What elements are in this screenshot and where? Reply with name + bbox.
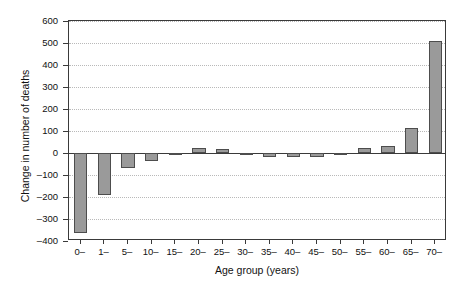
- bar: [310, 153, 323, 157]
- bar: [287, 153, 300, 157]
- x-tick-mark: [80, 240, 81, 244]
- bar: [192, 148, 205, 154]
- bar: [240, 153, 253, 155]
- x-tick-label: 15–: [166, 246, 182, 257]
- y-tick-label: –100: [37, 170, 58, 180]
- bar: [145, 153, 158, 161]
- y-tick-label: –300: [37, 214, 58, 224]
- x-axis: 0–1–5–10–15–20–25–30–35–40–45–50–55–60–6…: [68, 240, 446, 264]
- x-tick-label: 30–: [237, 246, 253, 257]
- x-tick-label: 20–: [190, 246, 206, 257]
- y-tick-label: 200: [42, 104, 58, 114]
- x-tick-label: 50–: [332, 246, 348, 257]
- y-tick-label: 400: [42, 60, 58, 70]
- x-tick-mark: [340, 240, 341, 244]
- bar: [334, 153, 347, 155]
- bar-chart: Change in number of deaths –400–300–200–…: [0, 0, 464, 291]
- x-tick-label: 40–: [285, 246, 301, 257]
- bar: [429, 41, 442, 153]
- y-tick-label: 300: [42, 82, 58, 92]
- x-tick-mark: [434, 240, 435, 244]
- bar: [381, 146, 394, 153]
- bar: [169, 153, 182, 155]
- x-tick-mark: [222, 240, 223, 244]
- x-tick-label: 60–: [379, 246, 395, 257]
- x-tick-label: 35–: [261, 246, 277, 257]
- x-tick-label: 10–: [143, 246, 159, 257]
- y-tick-label: 100: [42, 126, 58, 136]
- x-tick-label: 1–: [98, 246, 109, 257]
- bar: [98, 153, 111, 195]
- x-tick-mark: [387, 240, 388, 244]
- x-tick-label: 5–: [122, 246, 133, 257]
- x-tick-mark: [127, 240, 128, 244]
- x-tick-mark: [363, 240, 364, 244]
- bar: [263, 153, 276, 157]
- bar: [121, 153, 134, 168]
- y-tick-label: 0: [53, 148, 58, 158]
- x-tick-label: 0–: [75, 246, 86, 257]
- bar: [405, 128, 418, 153]
- x-tick-label: 45–: [308, 246, 324, 257]
- x-tick-mark: [316, 240, 317, 244]
- x-tick-label: 65–: [403, 246, 419, 257]
- x-tick-mark: [269, 240, 270, 244]
- bar-series: [69, 21, 445, 239]
- bar: [74, 153, 87, 233]
- bar: [216, 149, 229, 153]
- x-tick-label: 70–: [426, 246, 442, 257]
- plot-area: [68, 20, 446, 240]
- x-axis-title: Age group (years): [68, 264, 446, 276]
- x-tick-label: 55–: [355, 246, 371, 257]
- x-tick-label: 25–: [214, 246, 230, 257]
- x-tick-mark: [103, 240, 104, 244]
- x-tick-mark: [411, 240, 412, 244]
- y-tick-label: 500: [42, 38, 58, 48]
- y-axis: –400–300–200–1000100200300400500600: [0, 20, 68, 240]
- x-tick-mark: [245, 240, 246, 244]
- x-tick-mark: [174, 240, 175, 244]
- x-tick-mark: [198, 240, 199, 244]
- bar: [358, 148, 371, 154]
- y-tick-label: 600: [42, 16, 58, 26]
- x-tick-mark: [151, 240, 152, 244]
- y-tick-label: –200: [37, 192, 58, 202]
- y-tick-label: –400: [37, 236, 58, 246]
- x-tick-mark: [292, 240, 293, 244]
